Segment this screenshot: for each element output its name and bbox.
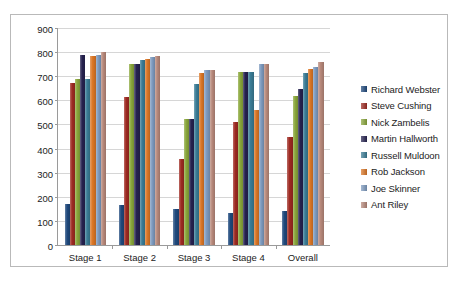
bar-group: Stage 2 <box>112 28 166 245</box>
bars-container <box>119 28 160 245</box>
bar-group: Overall <box>276 28 330 245</box>
bar-group: Stage 3 <box>167 28 221 245</box>
gridline-0: 0 <box>58 245 330 246</box>
legend-item[interactable]: Ant Riley <box>361 197 460 214</box>
bar <box>101 52 106 245</box>
legend-swatch-icon <box>361 136 367 142</box>
y-axis-tick-label: 400 <box>37 144 53 155</box>
y-axis-tick-label: 600 <box>37 96 53 107</box>
legend-item-label: Steve Cushing <box>371 100 432 111</box>
bar <box>318 62 323 245</box>
legend-swatch-icon <box>361 119 367 125</box>
y-axis-tick-label: 800 <box>37 48 53 59</box>
legend-swatch-icon <box>361 169 367 175</box>
bars-container <box>173 28 214 245</box>
legend-item-label: Nick Zambelis <box>371 117 429 128</box>
legend-item-label: Rob Jackson <box>371 166 425 177</box>
legend-swatch-icon <box>361 185 367 191</box>
legend-swatch-icon <box>361 152 367 158</box>
legend-item-label: Ant Riley <box>371 199 408 210</box>
bar <box>155 56 160 245</box>
bar-group: Stage 1 <box>58 28 112 245</box>
legend-item-label: Martin Hallworth <box>371 133 438 144</box>
legend-item[interactable]: Russell Muldoon <box>361 147 460 164</box>
x-axis-tick-label: Stage 1 <box>58 252 112 263</box>
legend-swatch-icon <box>361 103 367 109</box>
y-axis-tick-label: 300 <box>37 168 53 179</box>
legend-item-label: Joe Skinner <box>371 183 420 194</box>
y-tick-mark-0 <box>55 245 58 246</box>
bar <box>210 70 215 245</box>
x-axis-tick-label: Stage 2 <box>112 252 166 263</box>
legend-item[interactable]: Rob Jackson <box>361 164 460 181</box>
x-axis-tick-label: Overall <box>276 252 330 263</box>
chart-legend: Richard WebsterSteve CushingNick Zambeli… <box>361 81 460 213</box>
legend-item-label: Russell Muldoon <box>371 150 440 161</box>
x-axis-tick-label: Stage 4 <box>221 252 275 263</box>
bars-container <box>65 28 106 245</box>
legend-item[interactable]: Joe Skinner <box>361 180 460 197</box>
legend-item[interactable]: Steve Cushing <box>361 98 460 115</box>
bar-group: Stage 4 <box>221 28 275 245</box>
plot-inner: 0100200300400500600700800900 Stage 1Stag… <box>57 28 330 246</box>
legend-swatch-icon <box>361 202 367 208</box>
y-axis-tick-label: 100 <box>37 216 53 227</box>
x-axis-tick-label: Stage 3 <box>167 252 221 263</box>
bars-container <box>282 28 323 245</box>
bar <box>264 64 269 245</box>
legend-item[interactable]: Martin Hallworth <box>361 131 460 148</box>
y-axis-tick-label: 0 <box>48 241 53 252</box>
bar-groups: Stage 1Stage 2Stage 3Stage 4Overall <box>58 28 330 245</box>
legend-item[interactable]: Nick Zambelis <box>361 114 460 131</box>
chart-frame: 0100200300400500600700800900 Stage 1Stag… <box>10 14 448 267</box>
plot-area: 0100200300400500600700800900 Stage 1Stag… <box>57 28 330 246</box>
y-axis-tick-label: 900 <box>37 24 53 35</box>
bars-container <box>228 28 269 245</box>
legend-item-label: Richard Webster <box>371 84 440 95</box>
y-axis-tick-label: 500 <box>37 120 53 131</box>
legend-swatch-icon <box>361 86 367 92</box>
y-axis-tick-label: 700 <box>37 72 53 83</box>
legend-item[interactable]: Richard Webster <box>361 81 460 98</box>
y-axis-tick-label: 200 <box>37 192 53 203</box>
